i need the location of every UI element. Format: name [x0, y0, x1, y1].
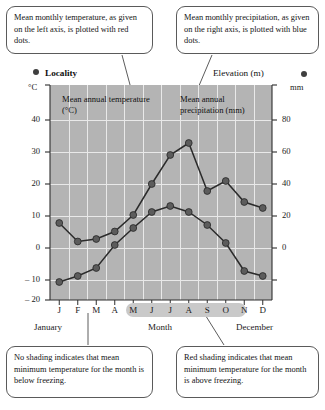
callout-precipitation: Mean monthly precipitation, as given on …: [176, 6, 319, 54]
left-tick-40: 40: [18, 114, 40, 124]
precipitation-series-caption: Mean annual precipitation (mm): [180, 94, 264, 117]
right-tick-40: 40: [282, 178, 304, 188]
callout-temperature: Mean monthly temperature, as given on th…: [6, 6, 153, 54]
x-axis-label: Month: [148, 322, 172, 332]
month-letter-jun: J: [145, 305, 159, 315]
precipitation-markers: [56, 140, 266, 245]
left-tick-30: 30: [18, 146, 40, 156]
left-tick-marks: [45, 85, 50, 300]
right-tick-marks: [272, 85, 277, 280]
callout-no-shading: No shading indicates that mean minimum t…: [6, 346, 153, 398]
month-letter-jan: J: [52, 305, 66, 315]
left-tick-20: 20: [18, 178, 40, 188]
right-tick-20: 20: [282, 210, 304, 220]
temperature-markers: [56, 203, 266, 286]
right-tick-60: 60: [282, 146, 304, 156]
precipitation-line: [59, 143, 263, 242]
left-tick-10: 10: [18, 210, 40, 220]
x-axis-end-label: December: [236, 322, 273, 332]
month-letter-mar: M: [89, 305, 103, 315]
month-letter-aug: A: [182, 305, 196, 315]
month-letter-jul: J: [163, 305, 177, 315]
x-axis-start-label: January: [34, 322, 62, 332]
left-tick-0: 0: [18, 242, 40, 252]
month-letter-sep: S: [200, 305, 214, 315]
month-letter-nov: N: [237, 305, 251, 315]
month-letter-may: M: [126, 305, 140, 315]
right-tick-80: 80: [282, 114, 304, 124]
right-tick-0: 0: [282, 242, 304, 252]
month-letter-dec: D: [256, 305, 270, 315]
temperature-line: [59, 206, 263, 282]
month-letter-apr: A: [108, 305, 122, 315]
climate-diagram: Locality Elevation (m) °C mm: [0, 60, 325, 345]
temperature-series-caption: Mean annual temperature (°C): [62, 94, 154, 117]
month-letter-oct: O: [219, 305, 233, 315]
month-letter-feb: F: [71, 305, 85, 315]
month-axis: J F M A M J J A S O N D: [50, 304, 272, 319]
left-tick-minus-10: – 10: [12, 274, 40, 284]
left-tick-minus-20: – 20: [12, 294, 40, 304]
callout-red-shading: Red shading indicates that mean minimum …: [176, 346, 319, 398]
